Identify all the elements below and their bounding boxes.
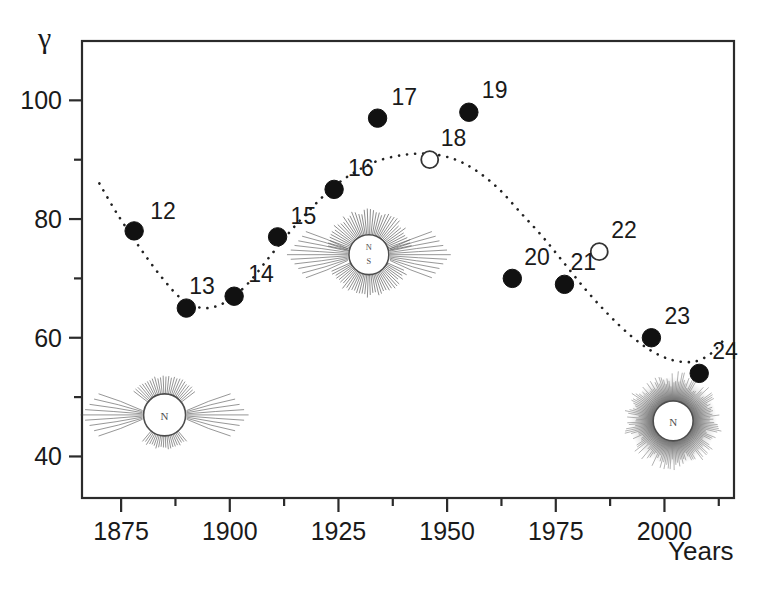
data-point-label: 19 xyxy=(482,77,508,103)
sun-disk xyxy=(349,235,389,275)
y-axis-ticks xyxy=(69,100,82,456)
data-point-filled[interactable] xyxy=(268,228,286,246)
data-point-filled[interactable] xyxy=(125,222,143,240)
data-point-label: 22 xyxy=(611,217,637,243)
x-tick-label: 1900 xyxy=(202,517,258,545)
x-axis-tick-labels: 187519001925195019752000 xyxy=(93,517,692,545)
corona-streamer xyxy=(291,256,348,259)
data-point-label: 13 xyxy=(189,273,215,299)
data-point-label: 21 xyxy=(570,249,596,275)
data-point-label: 17 xyxy=(392,84,418,110)
x-axis-title: Years xyxy=(668,536,734,566)
corona-streamer xyxy=(187,419,231,436)
sun-disk-letter: N xyxy=(161,410,169,422)
data-marker-labels: 12131415161719202123241822 xyxy=(150,77,738,364)
y-axis-tick-labels: 406080100 xyxy=(20,86,62,470)
polar-plume xyxy=(178,386,189,399)
polar-plume xyxy=(167,436,168,449)
data-point-filled[interactable] xyxy=(368,109,386,127)
data-point-filled[interactable] xyxy=(503,269,521,287)
data-point-label: 24 xyxy=(712,338,738,364)
data-point-filled[interactable] xyxy=(642,329,660,347)
corona-streamer xyxy=(94,418,143,431)
data-point-label: 14 xyxy=(248,261,274,287)
sun-diagram-solar-minimum-left: N xyxy=(81,376,249,450)
corona-streamer xyxy=(291,250,348,253)
corona-streamer xyxy=(94,399,143,412)
trend-curve-group xyxy=(99,153,725,362)
sun-disk-letter-north: N xyxy=(366,243,372,252)
corona-streamer xyxy=(187,394,231,411)
chart-canvas: 406080100 187519001925195019752000 γ Yea… xyxy=(0,0,783,592)
corona-streamer xyxy=(390,256,447,259)
x-tick-label: 1975 xyxy=(528,517,584,545)
polar-plume xyxy=(138,387,150,400)
data-point-label: 23 xyxy=(664,303,690,329)
corona-streamer xyxy=(99,419,143,436)
data-point-filled[interactable] xyxy=(177,299,195,317)
data-point-open[interactable] xyxy=(421,151,438,168)
data-point-filled[interactable] xyxy=(460,103,478,121)
polar-plume xyxy=(367,209,368,235)
data-markers xyxy=(125,103,708,383)
data-point-label: 12 xyxy=(150,198,176,224)
data-point-label: 18 xyxy=(441,125,467,151)
x-axis-ticks xyxy=(121,498,719,512)
sun-inset-illustrations: NNSN xyxy=(81,209,722,470)
corona-streamer xyxy=(187,399,236,412)
polar-plume xyxy=(386,265,402,275)
solar-cycle-chart: 406080100 187519001925195019752000 γ Yea… xyxy=(0,0,783,592)
polar-plume xyxy=(161,436,162,447)
polar-plume xyxy=(181,392,195,403)
sun-disk-letter: N xyxy=(669,416,677,428)
corona-streamer xyxy=(187,416,245,420)
polar-plume xyxy=(367,275,368,298)
corona-streamer xyxy=(99,394,143,411)
data-point-filled[interactable] xyxy=(555,275,573,293)
y-axis-symbol: γ xyxy=(37,21,51,54)
corona-streamer xyxy=(85,416,143,420)
data-point-label: 15 xyxy=(291,203,317,229)
corona-streamer xyxy=(390,250,447,253)
x-tick-label: 1950 xyxy=(419,517,475,545)
corona-streamer xyxy=(85,410,143,414)
polar-plume xyxy=(180,390,192,401)
polar-plume xyxy=(163,376,164,394)
data-point-label: 16 xyxy=(348,155,374,181)
data-point-filled[interactable] xyxy=(325,180,343,198)
sun-diagram-solar-maximum-right: N xyxy=(625,371,722,470)
polar-plume xyxy=(370,209,371,235)
dotted-trend-curve xyxy=(99,153,725,362)
y-tick-label: 40 xyxy=(34,442,62,470)
data-point-filled[interactable] xyxy=(690,364,708,382)
x-tick-label: 1875 xyxy=(93,517,149,545)
x-tick-label: 1925 xyxy=(311,517,367,545)
polar-plume xyxy=(386,235,405,245)
corona-streamer xyxy=(187,410,245,414)
y-tick-label: 100 xyxy=(20,86,62,114)
y-tick-label: 80 xyxy=(34,205,62,233)
corona-streamer xyxy=(187,418,236,431)
y-tick-label: 60 xyxy=(34,324,62,352)
polar-plume xyxy=(165,377,166,394)
polar-plume xyxy=(160,377,162,394)
polar-plume xyxy=(370,275,371,295)
data-point-filled[interactable] xyxy=(225,287,243,305)
sun-disk-letter-south: S xyxy=(367,257,372,266)
data-point-label: 20 xyxy=(524,244,550,270)
